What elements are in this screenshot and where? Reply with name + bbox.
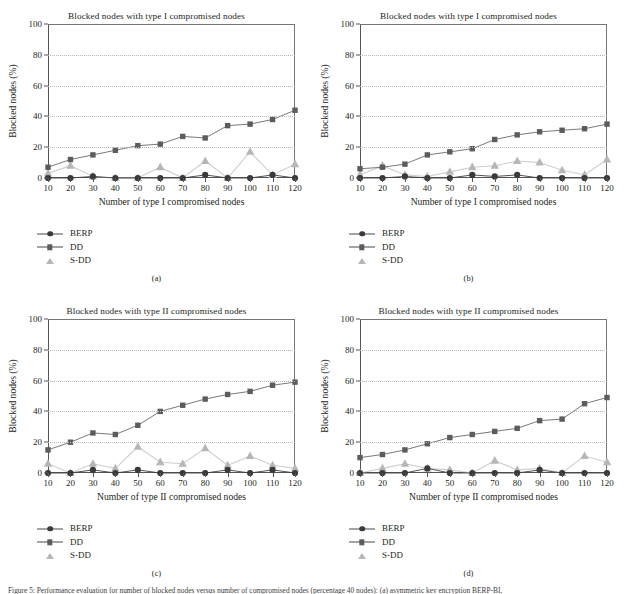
x-tick-mark [495,473,496,477]
circle-icon [348,523,376,534]
y-tick-mark [356,116,360,117]
circle-icon [36,523,64,534]
series-line-berp [48,470,295,473]
x-tick-label: 90 [535,183,544,193]
y-tick-mark [356,85,360,86]
y-tick-mark [356,411,360,412]
x-tick-mark [585,178,586,182]
x-tick-mark [360,473,361,477]
x-tick-label: 30 [400,478,409,488]
y-tick-label: 100 [341,19,355,29]
marker-square [270,383,275,388]
x-tick-mark [250,473,251,477]
marker-square [425,152,430,157]
marker-square [225,392,230,397]
marker-square [492,429,497,434]
legend-label-dd: DD [382,241,395,255]
marker-square [492,137,497,142]
marker-square [514,132,519,137]
x-tick-label: 60 [468,478,477,488]
plot-svg-c [48,319,295,473]
x-tick-label: 30 [88,183,97,193]
y-tick-label: 0 [350,468,355,478]
x-tick-label: 10 [44,478,53,488]
x-tick-label: 50 [445,478,454,488]
legend-label-berp: BERP [70,522,93,536]
series-line-dd [360,398,607,458]
x-tick-mark [183,473,184,477]
triangle-icon [36,255,64,266]
legend-label-berp: BERP [382,227,405,241]
x-tick-mark [205,178,206,182]
x-tick-label: 80 [201,183,210,193]
sublabel-b: (b) [312,274,625,283]
x-tick-label: 60 [156,478,165,488]
legend-item-berp: BERP [36,227,93,241]
marker-triangle [468,163,476,171]
y-tick-label: 80 [33,50,42,60]
gridline [48,442,295,443]
marker-square [380,165,385,170]
marker-triangle [401,459,409,467]
gridline [360,147,607,148]
x-tick-mark [427,473,428,477]
x-tick-label: 80 [513,478,522,488]
marker-triangle [246,451,254,459]
x-tick-mark [517,178,518,182]
gridline [48,55,295,56]
marker-triangle [156,163,164,171]
y-tick-mark [44,380,48,381]
series-line-s-dd [360,456,607,473]
legend-label-sdd: S-DD [70,549,91,563]
y-tick-label: 80 [33,345,42,355]
legend-label-sdd: S-DD [382,549,403,563]
marker-square [357,455,362,460]
x-tick-mark [48,473,49,477]
x-tick-mark [382,473,383,477]
legend-item-dd: DD [348,241,405,255]
legend-item-dd: DD [36,536,93,550]
y-tick-label: 60 [345,81,354,91]
marker-square [113,148,118,153]
chart-panel-b: Blocked nodes with type I compromised no… [312,0,625,290]
square-icon [36,242,64,253]
x-tick-label: 120 [600,478,614,488]
y-axis-label-c: Blocked nodes (%) [7,326,18,466]
marker-square [202,135,207,140]
series-line-s-dd [48,152,295,178]
legend-item-sdd: S-DD [36,549,93,563]
sublabel-d: (d) [312,569,625,578]
y-tick-label: 100 [29,314,43,324]
y-axis-label-d: Blocked nodes (%) [319,326,330,466]
marker-square [45,447,50,452]
marker-triangle [535,158,543,166]
plot-area-c: 020406080100102030405060708090100110120 [48,319,295,473]
x-tick-mark [160,178,161,182]
x-tick-label: 60 [156,183,165,193]
marker-square [582,126,587,131]
x-tick-mark [295,473,296,477]
y-tick-label: 0 [38,468,43,478]
square-icon [36,537,64,548]
gridline [360,442,607,443]
gridline [360,411,607,412]
plot-svg-b [360,24,607,178]
square-icon [348,242,376,253]
x-tick-mark [472,178,473,182]
x-tick-mark [360,178,361,182]
marker-triangle [603,155,611,163]
chart-panel-d: Blocked nodes with type II compromised n… [312,295,625,585]
y-tick-mark [44,116,48,117]
x-tick-label: 60 [468,183,477,193]
y-tick-mark [356,349,360,350]
marker-square [559,416,564,421]
x-tick-label: 20 [378,183,387,193]
x-tick-mark [93,178,94,182]
y-tick-mark [44,349,48,350]
x-tick-label: 120 [288,183,302,193]
x-tick-label: 100 [243,478,257,488]
legend-item-sdd: S-DD [36,254,93,268]
marker-square [292,108,297,113]
x-tick-label: 70 [490,478,499,488]
y-tick-label: 40 [33,406,42,416]
